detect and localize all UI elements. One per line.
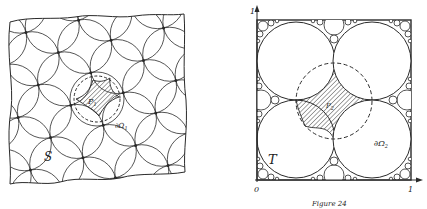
left-boundary-label: ∂Ω1	[115, 122, 128, 131]
lattice-node	[29, 169, 32, 172]
axis-origin-label: 0	[254, 185, 259, 194]
lattice-circle	[187, 100, 241, 154]
lattice-node	[4, 63, 7, 66]
lattice-circle	[25, 0, 79, 53]
lattice-circle	[0, 182, 11, 209]
lattice-node	[77, 19, 80, 22]
packing-circle	[268, 174, 274, 180]
y-axis-end-label: 1	[250, 7, 255, 16]
lattice-circle	[0, 0, 47, 33]
right-panel: 1 0 1 P2 ∂Ω2 T	[250, 5, 423, 194]
lattice-node	[82, 156, 85, 159]
x-axis-arrow-icon	[416, 178, 423, 183]
packing-circle	[257, 31, 263, 37]
figure-canvas: P1 ∂Ω1 S 1 0 1 P2 ∂Ω2 T Figure 24	[0, 0, 427, 209]
lattice-circle	[135, 112, 189, 166]
lattice-node	[122, 91, 125, 94]
lattice-node	[195, 47, 198, 50]
lattice-circle	[5, 32, 59, 86]
lattice-circle	[175, 47, 229, 101]
lattice-node	[69, 104, 72, 107]
lattice-node	[142, 59, 145, 62]
packing-circle	[324, 165, 344, 185]
lattice-circle	[98, 0, 152, 9]
lattice-node	[37, 84, 40, 87]
lattice-circle	[58, 19, 112, 73]
right-region-label: T	[268, 152, 278, 167]
packing-circle	[257, 163, 263, 169]
packing-circle	[394, 174, 400, 180]
x-axis-end-label: 1	[408, 185, 413, 194]
lattice-node	[109, 39, 112, 42]
lattice-node	[61, 189, 64, 192]
packing-circle	[400, 21, 410, 31]
lattice-node	[187, 132, 190, 135]
packing-circle	[271, 96, 279, 104]
lattice-circle	[0, 0, 14, 13]
left-cell-hatched	[76, 78, 119, 116]
packing-circle	[330, 35, 338, 43]
lattice-circle	[183, 0, 237, 16]
lattice-node	[154, 111, 157, 114]
lattice-circle	[180, 185, 234, 209]
packing-circle	[258, 169, 268, 179]
lattice-circle	[115, 145, 169, 199]
lattice-circle	[95, 177, 149, 209]
lattice-node	[167, 164, 170, 167]
lattice-node	[57, 51, 60, 54]
packing-circle	[324, 15, 344, 35]
lattice-circle	[163, 0, 217, 49]
left-panel: P1 ∂Ω1 S	[0, 0, 241, 209]
packing-circle	[330, 157, 338, 165]
lattice-circle	[0, 64, 39, 118]
left-region-label: S	[44, 150, 52, 164]
packing-circle	[405, 31, 411, 37]
lattice-node	[130, 6, 133, 9]
corner-circle-top-left	[257, 22, 335, 100]
lattice-circle	[10, 169, 64, 209]
packing-circle	[389, 96, 397, 104]
packing-circle	[394, 20, 400, 26]
lattice-circle	[167, 132, 221, 186]
lattice-node	[162, 26, 165, 29]
lattice-circle	[13, 0, 67, 1]
lattice-node	[146, 197, 149, 200]
y-axis-arrow-icon	[255, 5, 260, 12]
lattice-node	[24, 31, 27, 34]
packing-circle	[397, 90, 417, 110]
packing-circle	[258, 21, 268, 31]
lattice-node	[102, 124, 105, 127]
lattice-node	[49, 136, 52, 139]
lattice-circle	[42, 189, 96, 209]
corner-circle-top-right	[333, 22, 411, 100]
lattice-circle	[82, 125, 136, 179]
lattice-node	[89, 71, 92, 74]
lattice-circle	[147, 165, 201, 209]
lattice-circle	[123, 60, 177, 114]
lattice-circle	[0, 149, 31, 203]
lattice-circle	[17, 84, 71, 138]
packing-circle	[400, 169, 410, 179]
lattice-node	[134, 144, 137, 147]
lattice-circle	[0, 44, 7, 98]
packing-circle	[268, 20, 274, 26]
lattice-circle	[78, 0, 132, 41]
figure-caption: Figure 24	[311, 200, 347, 208]
lattice-node	[17, 116, 20, 119]
packing-circle	[251, 90, 271, 110]
corner-circle-bottom-right	[333, 100, 411, 178]
lattice-circle	[155, 80, 209, 134]
lattice-circle	[143, 27, 197, 81]
lattice-circle	[62, 157, 116, 209]
lattice-node	[174, 79, 177, 82]
packing-circle	[405, 163, 411, 169]
